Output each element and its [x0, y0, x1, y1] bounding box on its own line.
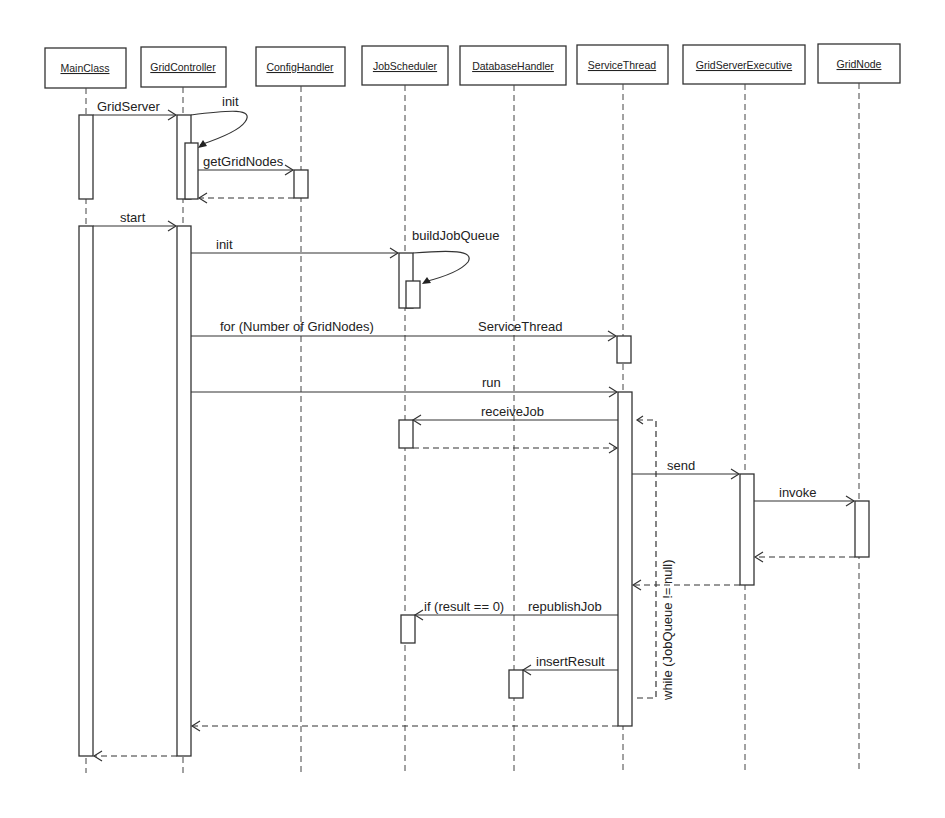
object-label: GridNode: [837, 58, 882, 70]
object-label: DatabaseHandler: [472, 60, 554, 72]
sequence-diagram: MainClass GridController ConfigHandler J…: [0, 0, 945, 818]
message-gridserver[interactable]: GridServer: [93, 99, 176, 120]
object-label: JobScheduler: [373, 60, 438, 72]
message-label: republishJob: [528, 599, 602, 614]
message-label: invoke: [779, 485, 817, 500]
message-getgridnodes[interactable]: getGridNodes: [198, 154, 293, 175]
message-label: ServiceThread: [478, 319, 563, 334]
message-label: buildJobQueue: [412, 228, 499, 243]
return-start[interactable]: [94, 751, 177, 761]
object-gridcontroller[interactable]: GridController: [141, 47, 226, 87]
message-start[interactable]: start: [93, 210, 176, 231]
message-republishjob[interactable]: if (result == 0) republishJob: [415, 599, 618, 620]
message-label: init: [222, 94, 239, 109]
object-gridserverexecutive[interactable]: GridServerExecutive: [683, 45, 805, 84]
loop-label: while (JobQueue != null): [660, 559, 675, 701]
object-label: GridController: [150, 61, 216, 73]
message-label: insertResult: [536, 654, 605, 669]
return-receivejob[interactable]: [413, 443, 617, 453]
message-label: getGridNodes: [203, 154, 284, 169]
return-getgridnodes[interactable]: [199, 193, 294, 203]
message-label: GridServer: [97, 99, 161, 114]
object-servicethread[interactable]: ServiceThread: [577, 45, 668, 84]
object-label: MainClass: [60, 62, 109, 74]
object-databasehandler[interactable]: DatabaseHandler: [460, 46, 566, 85]
condition-label: if (result == 0): [424, 599, 504, 614]
message-invoke[interactable]: invoke: [754, 485, 854, 506]
message-label: run: [482, 375, 501, 390]
activations: [79, 115, 869, 756]
message-init-scheduler[interactable]: init: [191, 237, 398, 258]
object-gridnode[interactable]: GridNode: [818, 44, 900, 83]
object-mainclass[interactable]: MainClass: [45, 48, 126, 88]
object-confighandler[interactable]: ConfigHandler: [256, 47, 345, 86]
message-send[interactable]: send: [632, 458, 739, 479]
return-invoke[interactable]: [755, 552, 855, 562]
message-label: send: [667, 458, 695, 473]
object-label: ConfigHandler: [266, 61, 334, 73]
message-label: init: [216, 237, 233, 252]
object-jobscheduler[interactable]: JobScheduler: [362, 46, 448, 85]
message-label: receiveJob: [481, 404, 544, 419]
lifelines: [86, 83, 859, 773]
object-label: ServiceThread: [588, 59, 656, 71]
message-init-self[interactable]: init: [191, 94, 247, 148]
object-label: GridServerExecutive: [696, 59, 792, 71]
message-run[interactable]: run: [191, 375, 617, 397]
return-send[interactable]: [633, 580, 740, 590]
message-buildjobqueue[interactable]: buildJobQueue: [412, 228, 499, 284]
message-insertresult[interactable]: insertResult: [523, 654, 618, 675]
message-receivejob[interactable]: receiveJob: [413, 404, 618, 425]
message-for-servicethread[interactable]: for (Number of GridNodes) ServiceThread: [191, 319, 616, 341]
loop-label: for (Number of GridNodes): [220, 319, 374, 334]
message-label: start: [120, 210, 146, 225]
